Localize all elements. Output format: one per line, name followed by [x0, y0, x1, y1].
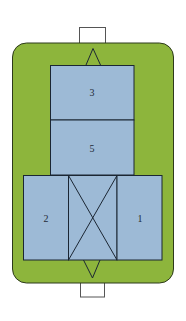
box-3-label: 3 — [90, 87, 95, 98]
connector-top — [80, 28, 106, 44]
box-2: 2 — [24, 176, 69, 261]
box-1: 1 — [117, 176, 162, 261]
connector-bottom — [81, 282, 105, 297]
box-5-label: 5 — [90, 143, 95, 154]
box-5: 5 — [51, 120, 135, 175]
box-3: 3 — [51, 66, 135, 121]
box-1-label: 1 — [138, 213, 143, 224]
box-cross — [69, 176, 118, 261]
box-2-label: 2 — [44, 213, 49, 224]
floor-plan-diagram: 3 5 2 1 — [0, 0, 186, 321]
